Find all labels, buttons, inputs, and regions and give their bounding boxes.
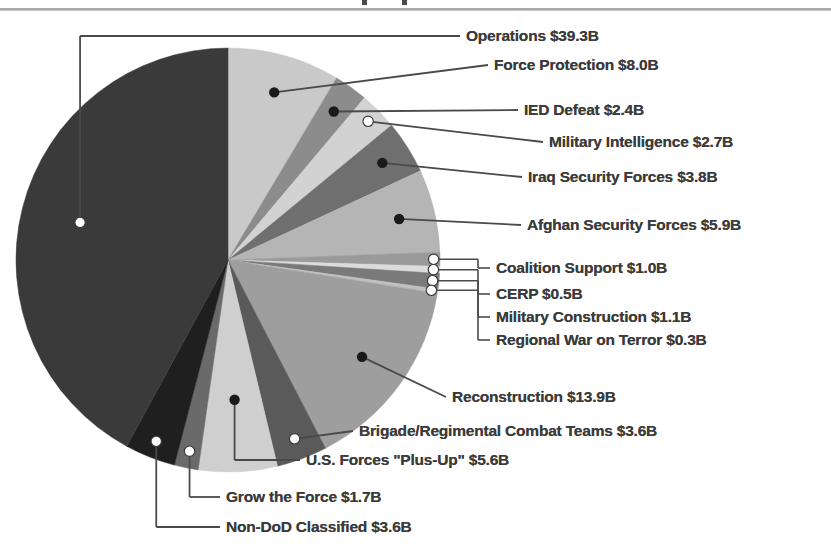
chart-canvas: Operations $39.3BForce Protection $8.0BI… <box>0 0 831 551</box>
slice-marker <box>269 87 279 97</box>
slice-marker <box>428 254 438 264</box>
pie-chart <box>0 0 831 551</box>
chart-label-cerp: CERP $0.5B <box>496 286 582 302</box>
slice-marker <box>184 446 194 456</box>
slice-marker <box>329 106 339 116</box>
chart-label-military-construction: Military Construction $1.1B <box>496 309 691 325</box>
chart-label-ied-defeat: IED Defeat $2.4B <box>524 102 644 118</box>
chart-label-regional-war-on-terror: Regional War on Terror $0.3B <box>496 332 707 348</box>
slice-marker <box>428 264 438 274</box>
slice-marker <box>426 285 436 295</box>
slice-marker <box>289 434 299 444</box>
chart-label-force-protection: Force Protection $8.0B <box>494 57 658 73</box>
chart-label-non-dod-classified: Non-DoD Classified $3.6B <box>226 519 412 535</box>
chart-label-military-intelligence: Military Intelligence $2.7B <box>549 134 733 150</box>
slice-marker <box>427 276 437 286</box>
chart-label-brigade-combat-teams: Brigade/Regimental Combat Teams $3.6B <box>359 423 657 439</box>
slice-marker <box>151 436 161 446</box>
slice-marker <box>394 214 404 224</box>
slice-marker <box>229 395 239 405</box>
chart-label-operations: Operations $39.3B <box>466 28 599 44</box>
chart-label-reconstruction: Reconstruction $13.9B <box>452 389 616 405</box>
chart-label-iraq-security-forces: Iraq Security Forces $3.8B <box>528 169 718 185</box>
slice-marker <box>377 158 387 168</box>
chart-label-grow-the-force: Grow the Force $1.7B <box>226 489 381 505</box>
slice-marker <box>357 352 367 362</box>
slice-marker <box>363 116 373 126</box>
chart-label-us-forces-plus-up: U.S. Forces "Plus-Up" $5.6B <box>306 452 509 468</box>
chart-label-coalition-support: Coalition Support $1.0B <box>496 260 667 276</box>
chart-label-afghan-security-forces: Afghan Security Forces $5.9B <box>527 217 741 233</box>
slice-marker <box>75 217 85 227</box>
